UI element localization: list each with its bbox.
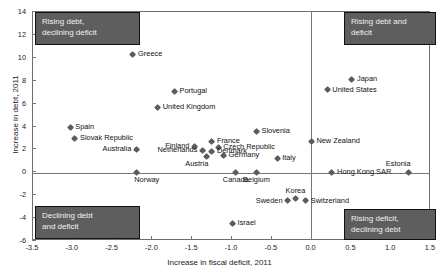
- x-tick-label: 0.5: [330, 243, 370, 252]
- data-point-label: Slovenia: [261, 127, 289, 135]
- data-point-label: United Kingdom: [163, 103, 216, 111]
- data-point-label: New Zealand: [316, 137, 360, 145]
- data-point-label: Hong Kong SAR: [337, 168, 391, 176]
- data-point-label: United States: [332, 86, 376, 94]
- quadrant-label-line: declining debt: [351, 225, 429, 236]
- x-tick-mark: [191, 236, 192, 240]
- quadrant-label-top-right: Rising debt anddeficit: [344, 12, 436, 45]
- x-tick-mark: [231, 236, 232, 240]
- data-point-label: Sweden: [256, 197, 283, 205]
- data-point-label: Austria: [185, 160, 208, 168]
- data-point-label: Belgium: [243, 176, 270, 184]
- quadrant-label-line: Rising debt and: [351, 17, 429, 28]
- quadrant-label-bottom-left: Declining debtand deficit: [35, 206, 140, 239]
- x-tick-label: -0.5: [251, 243, 291, 252]
- data-point-label: Israel: [238, 219, 256, 227]
- quadrant-label-top-left: Rising debt,declining deficit: [35, 12, 140, 45]
- x-tick-mark: [271, 236, 272, 240]
- data-point-label: Greece: [138, 50, 162, 58]
- data-point-label: Slovak Republic: [80, 134, 133, 142]
- quadrant-label-line: and deficit: [42, 222, 133, 233]
- x-axis-title: Increase in fiscal deficit, 2011: [0, 258, 439, 267]
- quadrant-label-line: declining deficit: [42, 28, 133, 39]
- y-tick-mark: [32, 80, 36, 81]
- scatter-chart: -3.5-3.0-2.5-2.0-1.5-1.0-0.50.00.51.01.5…: [0, 0, 439, 274]
- quadrant-label-bottom-right: Rising deficit,declining debt: [344, 209, 436, 240]
- quadrant-label-line: Rising deficit,: [351, 214, 429, 225]
- y-tick-label: 14: [4, 7, 26, 16]
- x-tick-label: 1.0: [370, 243, 410, 252]
- x-tick-label: -2.0: [131, 243, 171, 252]
- x-tick-label: -2.5: [92, 243, 132, 252]
- quadrant-label-line: Declining debt: [42, 211, 133, 222]
- quadrant-label-line: deficit: [351, 28, 429, 39]
- y-tick-mark: [32, 171, 36, 172]
- x-tick-label: -1.5: [171, 243, 211, 252]
- y-tick-label: 12: [4, 30, 26, 39]
- data-point-label: Italy: [282, 154, 296, 162]
- data-point-label: Switzerland: [311, 197, 349, 205]
- data-point-label: Japan: [357, 75, 377, 83]
- data-point-label: Estonia: [386, 160, 411, 168]
- data-point-label: Spain: [75, 123, 94, 131]
- quadrant-label-line: Rising debt,: [42, 17, 133, 28]
- x-tick-label: -1.0: [211, 243, 251, 252]
- x-tick-label: 0.0: [291, 243, 331, 252]
- x-tick-mark: [311, 236, 312, 240]
- data-point-label: Australia: [103, 145, 132, 153]
- x-tick-mark: [151, 236, 152, 240]
- data-point-label: Korea: [286, 187, 306, 195]
- data-point-label: Norway: [134, 176, 159, 184]
- y-tick-mark: [32, 148, 36, 149]
- y-tick-mark: [32, 57, 36, 58]
- y-tick-mark: [32, 240, 36, 241]
- data-point-label: Portugal: [179, 87, 207, 95]
- y-tick-mark: [32, 103, 36, 104]
- y-tick-label: -2: [4, 190, 26, 199]
- data-point-label: Netherlands: [157, 146, 197, 154]
- y-tick-label: -6: [4, 236, 26, 245]
- y-axis-title: Increase in debt, 2011: [11, 45, 20, 185]
- y-tick-label: -4: [4, 213, 26, 222]
- zero-vertical-axis: [311, 11, 312, 240]
- x-tick-label: 1.5: [410, 243, 439, 252]
- data-point-label: Germany: [229, 151, 259, 159]
- y-tick-mark: [32, 126, 36, 127]
- y-tick-mark: [32, 194, 36, 195]
- x-tick-label: -3.0: [52, 243, 92, 252]
